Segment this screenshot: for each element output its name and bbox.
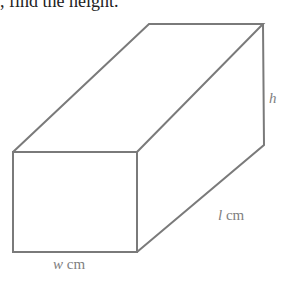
- width-unit: cm: [67, 256, 85, 272]
- length-variable: l: [218, 207, 222, 223]
- front-face: [13, 152, 137, 252]
- width-variable: w: [53, 256, 63, 272]
- length-label: l cm: [218, 207, 244, 224]
- height-label: h: [269, 90, 277, 107]
- width-label: w cm: [53, 256, 85, 273]
- length-unit: cm: [226, 207, 244, 223]
- cuboid-diagram: [0, 0, 286, 300]
- height-variable: h: [269, 90, 277, 106]
- top-face: [13, 24, 263, 152]
- right-face: [137, 24, 264, 252]
